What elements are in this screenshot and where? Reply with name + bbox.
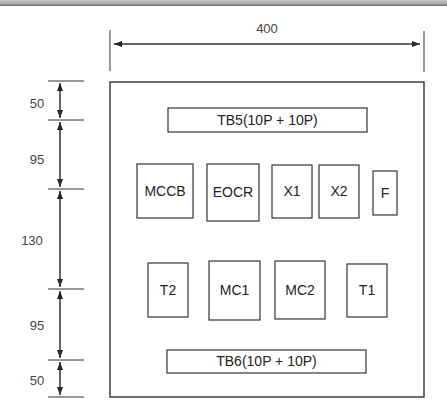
svg-text:TB6(10P + 10P): TB6(10P + 10P) — [216, 353, 317, 369]
dim-label-bottom-margin: 50 — [30, 373, 44, 388]
svg-text:MC2: MC2 — [285, 282, 315, 298]
height-dimension-chain: 50 95 130 95 50 — [21, 81, 84, 397]
component-mccb: MCCB — [137, 164, 193, 218]
component-t1: T1 — [347, 264, 387, 317]
dim-label-upper-gap: 95 — [30, 152, 44, 167]
svg-text:F: F — [381, 185, 390, 201]
component-x1: X1 — [272, 165, 312, 218]
width-dimension-label: 400 — [256, 21, 278, 36]
svg-text:T2: T2 — [160, 282, 177, 298]
component-t2: T2 — [148, 263, 188, 317]
svg-text:EOCR: EOCR — [213, 184, 253, 200]
component-mc1: MC1 — [209, 261, 260, 320]
svg-text:T1: T1 — [359, 282, 376, 298]
width-dimension: 400 — [110, 21, 424, 72]
panel-layout-diagram: 400 50 95 130 95 50 TB5(10P + 10P) MCCB — [0, 0, 447, 420]
dim-label-top-margin: 50 — [30, 96, 44, 111]
svg-text:MC1: MC1 — [220, 282, 250, 298]
component-fuse-f: F — [373, 171, 397, 215]
terminal-block-tb5: TB5(10P + 10P) — [168, 108, 367, 132]
component-x2: X2 — [319, 165, 359, 218]
svg-text:MCCB: MCCB — [144, 183, 185, 199]
dim-label-middle-gap: 130 — [21, 233, 43, 248]
dim-label-lower-gap: 95 — [30, 318, 44, 333]
terminal-block-tb6: TB6(10P + 10P) — [167, 350, 366, 373]
svg-text:X2: X2 — [330, 183, 347, 199]
component-eocr: EOCR — [207, 164, 259, 221]
component-mc2: MC2 — [275, 261, 325, 319]
svg-text:TB5(10P + 10P): TB5(10P + 10P) — [217, 112, 318, 128]
svg-text:X1: X1 — [283, 183, 300, 199]
